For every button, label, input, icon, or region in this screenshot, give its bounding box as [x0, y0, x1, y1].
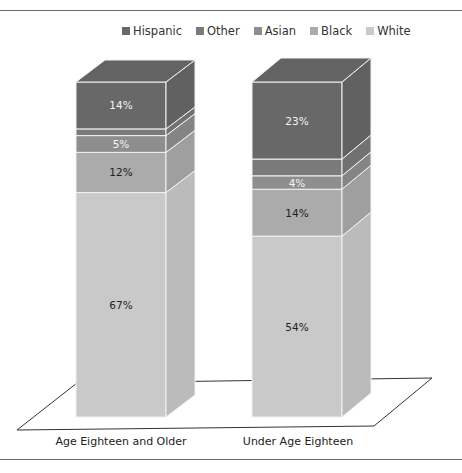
bar-0	[76, 60, 195, 417]
segment-label-white: 67%	[109, 299, 132, 311]
segment-label-hispanic: 14%	[109, 99, 132, 111]
bar-segment-other	[252, 159, 342, 176]
chart-plot	[0, 0, 462, 473]
bar-side-white	[342, 212, 371, 417]
category-label-minors: Under Age Eighteen	[243, 435, 353, 448]
bar-segment-other	[76, 129, 166, 136]
segment-label-black: 12%	[109, 166, 132, 178]
bar-side-white	[166, 171, 195, 417]
segment-label-asian: 4%	[289, 177, 306, 189]
segment-label-asian: 5%	[113, 138, 130, 150]
bar-1	[252, 58, 371, 417]
category-label-adults: Age Eighteen and Older	[55, 435, 186, 448]
segment-label-black: 14%	[285, 207, 308, 219]
segment-label-white: 54%	[285, 321, 308, 333]
segment-label-hispanic: 23%	[285, 115, 308, 127]
